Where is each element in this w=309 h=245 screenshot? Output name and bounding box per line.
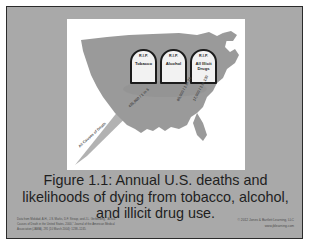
united-states-map xyxy=(67,19,245,170)
copyright-block: © 2012 Jones & Bartlett Learning, LLC ww… xyxy=(238,217,295,230)
caption-line-1: Figure 1.1: Annual U.S. deaths and xyxy=(15,172,296,189)
source-citation: Data from Mokdad, A.H., J.S. Marks, D.F.… xyxy=(17,217,175,232)
tombstone-alcohol: R.I.P. Alcohol xyxy=(160,49,187,84)
tombstone-label: Tobacco xyxy=(132,61,155,66)
tombstone-rip-text: R.I.P. xyxy=(192,55,215,59)
tombstone-label: All Illicit Drugs xyxy=(192,61,215,72)
tombstone-rip-text: R.I.P. xyxy=(132,55,155,59)
figure-panel: R.I.P. Tobacco R.I.P. Alcohol R.I.P. All… xyxy=(67,19,245,170)
tombstone-tobacco: R.I.P. Tobacco xyxy=(130,49,157,84)
publisher-website: www.jblearning.com xyxy=(238,223,295,229)
slide-footer: Data from Mokdad, A.H., J.S. Marks, D.F.… xyxy=(7,215,304,240)
slide-container: R.I.P. Tobacco R.I.P. Alcohol R.I.P. All… xyxy=(6,6,303,239)
tombstone-label: Alcohol xyxy=(162,61,185,66)
caption-line-2: likelihoods of dying from tobacco, alcoh… xyxy=(15,189,296,206)
source-line-3: Association (JAMA), 291 (10 March 2004):… xyxy=(17,227,175,232)
tombstone-rip-text: R.I.P. xyxy=(162,55,185,59)
